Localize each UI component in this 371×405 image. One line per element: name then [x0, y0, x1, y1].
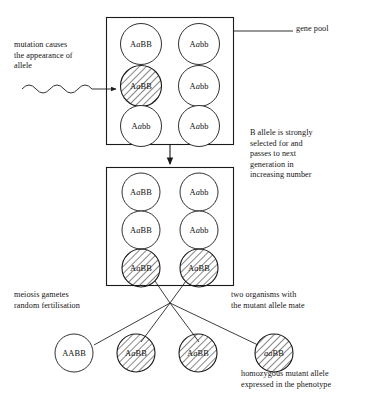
organism-cell: Aabb	[180, 211, 218, 249]
organism-cell: Aabb	[179, 24, 220, 65]
organism-cell-mutant: AaBB	[121, 66, 162, 107]
annotation-gene-pool: gene pool	[296, 24, 366, 35]
cell-genotype-label: Aabb	[189, 226, 208, 235]
cell-genotype-label: AaBB	[125, 349, 147, 358]
cell-genotype-label: Aabb	[131, 122, 150, 131]
organism-cell: Aabb	[180, 173, 218, 211]
cell-genotype-label: AaBB	[187, 349, 209, 358]
cell-genotype-label: AABB	[62, 349, 86, 358]
organism-cell: AaBB	[122, 211, 160, 249]
annotation-meiosis: meiosis gametes random fertilisation	[14, 290, 144, 311]
offspring-cell-mutant: AaBB	[117, 334, 155, 372]
offspring-cell-mutant: aaBB	[255, 334, 293, 372]
cell-genotype-label: AaBB	[130, 264, 152, 273]
mating-line-left	[155, 281, 170, 303]
organism-cell: Aabb	[179, 66, 220, 107]
annotation-mutation: mutation causes the appearance of allele	[14, 40, 110, 72]
mutation-selection-diagram: AaBB Aabb AaBB Aabb Aabb Aabb	[0, 0, 371, 405]
cell-genotype-label: AaBB	[188, 264, 210, 273]
cell-genotype-label: aaBB	[264, 349, 284, 358]
cell-genotype-label: AaBB	[130, 226, 152, 235]
offspring-cell: AABB	[55, 334, 93, 372]
cell-genotype-label: AaBB	[130, 82, 152, 91]
cell-genotype-label: Aabb	[189, 82, 208, 91]
mating-line-right	[170, 281, 186, 303]
cell-genotype-label: Aabb	[189, 188, 208, 197]
organism-cell-mutant: AaBB	[122, 249, 160, 287]
organism-cell: Aabb	[121, 106, 162, 147]
organism-cell: Aabb	[179, 106, 220, 147]
annotation-selection: B allele is strongly selected for and pa…	[250, 128, 368, 181]
annotation-homozygous: homozygous mutant allele expressed in th…	[241, 369, 371, 390]
cell-genotype-label: AaBB	[130, 40, 152, 49]
cell-genotype-label: Aabb	[189, 122, 208, 131]
annotation-mating: two organisms with the mutant allele mat…	[231, 290, 367, 311]
offspring-cell-mutant: AaBB	[179, 334, 217, 372]
mutation-wavy-arrow	[22, 85, 116, 93]
organism-cell: AaBB	[121, 24, 162, 65]
cell-genotype-label: AaBB	[130, 188, 152, 197]
organism-cell: AaBB	[122, 173, 160, 211]
cell-genotype-label: Aabb	[189, 40, 208, 49]
